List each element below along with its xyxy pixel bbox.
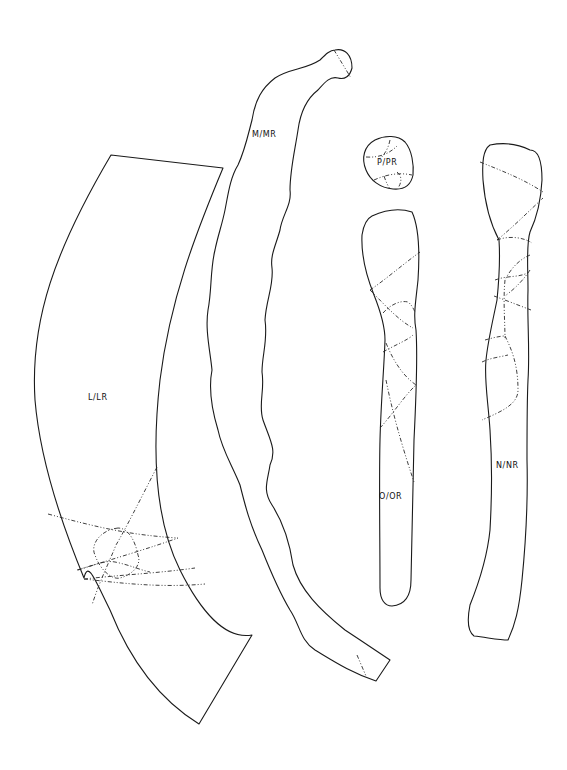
piece-l-outline (34, 155, 252, 724)
piece-n-nr: N/NR (468, 144, 543, 640)
piece-o-label: O/OR (379, 492, 402, 501)
piece-n-label: N/NR (496, 461, 519, 470)
piece-m-outline (207, 50, 390, 681)
piece-p-label: P/PR (377, 158, 397, 167)
piece-l-label: L/LR (88, 393, 108, 402)
piece-l-lr: L/LR (34, 155, 252, 724)
piece-m-label: M/MR (252, 130, 276, 139)
piece-m-mr: M/MR (207, 50, 390, 681)
piece-n-outline (468, 144, 542, 640)
piece-o-or: O/OR (362, 210, 420, 606)
piece-p-pr: P/PR (364, 136, 414, 189)
piece-o-outline (362, 210, 419, 606)
pattern-diagram: L/LR M/MR P/PR O/OR (0, 0, 567, 770)
